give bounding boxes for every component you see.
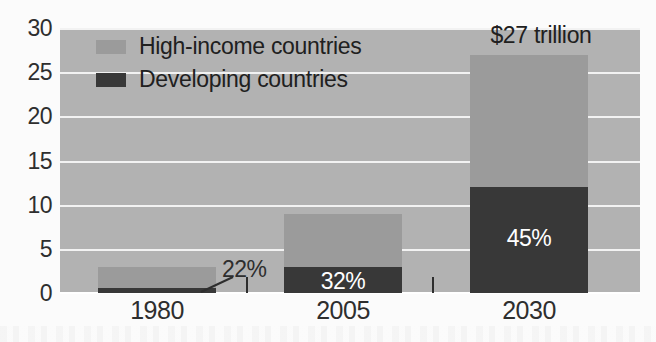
bar-segment-high-income-2005[interactable] bbox=[284, 214, 402, 267]
data-label-2005: 32% bbox=[284, 270, 402, 293]
y-axis-tick-label: 0 bbox=[0, 282, 52, 305]
y-axis-tick-label: 25 bbox=[0, 61, 52, 84]
x-axis-label-1980: 1980 bbox=[87, 296, 227, 325]
data-label-1980: 22% bbox=[222, 258, 267, 281]
legend-swatch-icon bbox=[96, 73, 126, 87]
legend-item-high-income[interactable]: High-income countries bbox=[96, 30, 426, 63]
x-axis-label-2005: 2005 bbox=[273, 296, 413, 325]
y-axis-tick-label: 5 bbox=[0, 237, 52, 260]
x-axis: 1980 2005 2030 bbox=[60, 296, 640, 330]
bar-segment-developing-1980[interactable] bbox=[98, 288, 216, 293]
legend-label: High-income countries bbox=[139, 35, 362, 58]
x-axis-label-2030: 2030 bbox=[459, 296, 599, 325]
total-annotation-2030: $27 trillion bbox=[451, 24, 631, 47]
bar-segment-developing-2005[interactable]: 32% bbox=[284, 267, 402, 294]
x-axis-tick bbox=[432, 277, 434, 293]
y-axis-tick-label: 30 bbox=[0, 17, 52, 40]
bar-segment-developing-2030[interactable]: 45% bbox=[470, 187, 588, 293]
scan-artifact bbox=[0, 326, 656, 342]
bar-segment-high-income-1980[interactable] bbox=[98, 267, 216, 288]
stacked-bar-chart: 30 25 20 15 10 5 0 32% bbox=[0, 0, 656, 342]
bar-segment-high-income-2030[interactable] bbox=[470, 55, 588, 188]
legend-item-developing[interactable]: Developing countries bbox=[96, 63, 426, 96]
y-axis-tick-label: 20 bbox=[0, 105, 52, 128]
y-axis-tick-label: 15 bbox=[0, 149, 52, 172]
legend-label: Developing countries bbox=[139, 68, 348, 91]
y-axis: 30 25 20 15 10 5 0 bbox=[0, 28, 52, 293]
y-axis-tick-label: 10 bbox=[0, 193, 52, 216]
legend-swatch-icon bbox=[96, 40, 126, 54]
data-label-2030: 45% bbox=[470, 227, 588, 250]
legend: High-income countries Developing countri… bbox=[96, 30, 426, 96]
